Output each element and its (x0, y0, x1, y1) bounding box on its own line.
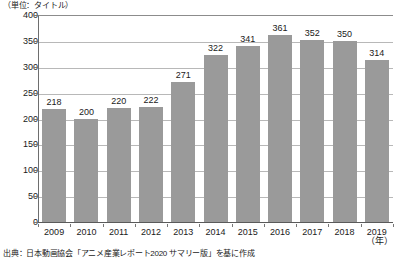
bar-value-label: 341 (232, 35, 264, 44)
bar-value-label: 200 (70, 108, 102, 117)
y-axis-tick-label: 100 (4, 166, 38, 175)
y-axis-tick-label: 250 (4, 89, 38, 98)
bar (204, 55, 228, 222)
bar (268, 35, 292, 222)
y-axis-tick-label: 300 (4, 63, 38, 72)
bar-value-label: 350 (328, 30, 360, 39)
anime-titles-bar-chart: （単位：タイトル） 050100150200250300350400 21820… (0, 0, 399, 262)
x-axis-baseline (38, 222, 393, 223)
x-axis: 2009201020112012201320142015201620172018… (38, 224, 393, 238)
bar-value-label: 352 (296, 29, 328, 38)
bar (42, 109, 66, 222)
bar-value-label: 314 (361, 49, 393, 58)
y-axis-tick-label: 0 (4, 218, 38, 227)
bar-value-label: 220 (103, 97, 135, 106)
x-axis-tick-label: 2016 (264, 227, 296, 237)
bar-value-label: 222 (135, 96, 167, 105)
y-axis-tick-label: 150 (4, 140, 38, 149)
bar (139, 107, 163, 222)
x-axis-tick-label: 2017 (296, 227, 328, 237)
bar (365, 60, 389, 222)
bar-value-label: 361 (264, 24, 296, 33)
x-axis-unit-label: （年） (366, 236, 393, 246)
bars-layer: 218200220222271322341361352350314 (38, 15, 393, 222)
bar (74, 119, 98, 223)
bar-value-label: 218 (38, 98, 70, 107)
x-axis-tick-label: 2013 (167, 227, 199, 237)
y-axis-tick-label: 200 (4, 115, 38, 124)
y-axis-tick-label: 350 (4, 37, 38, 46)
bar (171, 82, 195, 222)
x-axis-tick-label: 2014 (199, 227, 231, 237)
bar (107, 108, 131, 222)
y-axis: 050100150200250300350400 (0, 0, 38, 262)
bar (333, 41, 357, 222)
bar-value-label: 271 (167, 71, 199, 80)
x-axis-tick-label: 2018 (328, 227, 360, 237)
x-axis-tick-label: 2012 (135, 227, 167, 237)
x-axis-tick-label: 2011 (103, 227, 135, 237)
y-axis-tick-label: 50 (4, 192, 38, 201)
x-axis-tick-label: 2009 (38, 227, 70, 237)
x-axis-tick-label: 2010 (70, 227, 102, 237)
bar (300, 40, 324, 222)
x-axis-tick-label: 2015 (232, 227, 264, 237)
x-axis-tick (393, 224, 394, 227)
bar-value-label: 322 (199, 44, 231, 53)
bar (236, 46, 260, 222)
y-axis-tick-label: 400 (4, 11, 38, 20)
source-note: 出典：日本動画協会「アニメ産業レポート2020 サマリー版」を基に作成 (3, 249, 254, 259)
